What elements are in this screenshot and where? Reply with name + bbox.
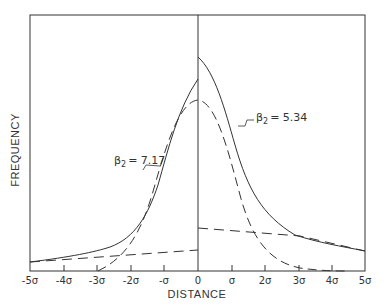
- curve-narrow-dashed: [98, 100, 345, 271]
- svg-text:3σ: 3σ: [293, 275, 306, 286]
- x-tick-labels: -5σ -4σ -3σ -2σ -σ 0 σ 2σ 3σ 4σ 5σ: [22, 275, 372, 286]
- curve-broad-dashed-right: [198, 228, 365, 251]
- svg-text:-2σ: -2σ: [123, 275, 140, 286]
- svg-text:5σ: 5σ: [359, 275, 372, 286]
- leader-right: [238, 120, 254, 126]
- svg-text:σ: σ: [229, 275, 236, 286]
- svg-text:4σ: 4σ: [326, 275, 339, 286]
- y-axis-title: FREQUENCY: [9, 113, 21, 187]
- x-axis-title: DISTANCE: [168, 288, 227, 300]
- svg-text:-σ: -σ: [159, 275, 170, 286]
- svg-text:0: 0: [195, 275, 201, 286]
- curve-left-solid: [30, 79, 198, 262]
- svg-text:-5σ: -5σ: [22, 275, 39, 286]
- annotation-left: β2= 7.17: [114, 154, 165, 169]
- curve-broad-dashed-left: [30, 250, 198, 262]
- curve-right-solid: [198, 57, 365, 251]
- svg-text:2σ: 2σ: [259, 275, 272, 286]
- svg-text:-3σ: -3σ: [89, 275, 106, 286]
- annotation-right: β2= 5.34: [256, 111, 307, 126]
- chart-canvas: β2= 7.17 β2= 5.34 -5σ -4σ -3σ -2σ -σ 0 σ…: [0, 0, 386, 308]
- svg-text:-4σ: -4σ: [56, 275, 73, 286]
